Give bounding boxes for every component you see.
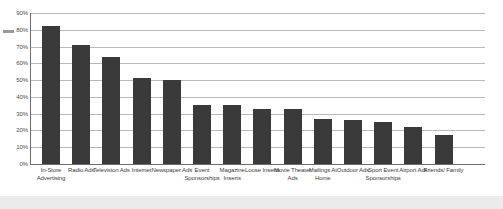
bar <box>374 122 392 164</box>
y-tick-label-20: 20% <box>2 127 28 133</box>
bar <box>102 57 120 164</box>
y-tick-label-0: 0% <box>2 161 28 167</box>
bar <box>193 105 211 164</box>
y-axis-tick-labels: 0%10%20%30%40%50%60%70%80%90% <box>0 13 28 164</box>
bar <box>344 120 362 164</box>
bar <box>314 119 332 164</box>
bar-series <box>30 13 485 164</box>
bar-chart-figure: 0%10%20%30%40%50%60%70%80%90% In-Store A… <box>0 0 503 209</box>
y-tick-label-40: 40% <box>2 94 28 100</box>
y-tick-label-60: 60% <box>2 60 28 66</box>
y-tick-label-90: 90% <box>2 10 28 16</box>
bar <box>253 109 271 164</box>
bar <box>133 78 151 164</box>
y-tick-label-30: 30% <box>2 111 28 117</box>
bar <box>42 26 60 164</box>
y-tick-label-50: 50% <box>2 77 28 83</box>
y-tick-label-10: 10% <box>2 144 28 150</box>
bar <box>284 109 302 164</box>
y-tick-label-70: 70% <box>2 44 28 50</box>
category-label: Friends/ Family <box>422 167 466 175</box>
bar <box>163 80 181 164</box>
gridline-0 <box>30 164 485 165</box>
bar <box>435 135 453 164</box>
bar <box>404 127 422 164</box>
bottom-band <box>0 196 503 209</box>
bar <box>223 105 241 164</box>
y-tick-label-80: 80% <box>2 27 28 33</box>
bar <box>72 45 90 164</box>
